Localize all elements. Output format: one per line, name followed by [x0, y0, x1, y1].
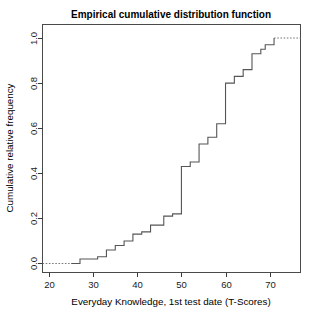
ecdf-chart-figure: Empirical cumulative distribution functi…: [0, 0, 321, 319]
x-axis-title: Everyday Knowledge, 1st test date (T-Sco…: [71, 296, 270, 307]
chart-canvas: Empirical cumulative distribution functi…: [0, 0, 321, 319]
y-tick-label-0.4: 0.4: [28, 167, 39, 180]
y-tick-label-1.0: 1.0: [28, 32, 39, 45]
x-tick-label-70: 70: [265, 279, 276, 290]
y-tick-label-0.6: 0.6: [28, 122, 39, 135]
x-tick-label-60: 60: [221, 279, 232, 290]
x-tick-label-40: 40: [132, 279, 143, 290]
chart-title: Empirical cumulative distribution functi…: [71, 9, 271, 20]
y-tick-label-0.8: 0.8: [28, 77, 39, 90]
y-tick-label-0.2: 0.2: [28, 212, 39, 225]
chart-background: [0, 0, 321, 319]
y-axis-title: Cumulative relative frequency: [4, 83, 15, 212]
x-tick-label-50: 50: [176, 279, 187, 290]
x-tick-label-30: 30: [88, 279, 99, 290]
x-tick-label-20: 20: [44, 279, 55, 290]
y-tick-label-0.0: 0.0: [28, 257, 39, 270]
